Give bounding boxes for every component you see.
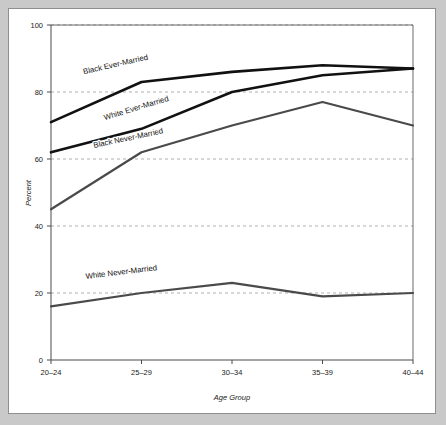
y-tick-label-0: 0 bbox=[39, 356, 43, 365]
y-tick-label-100: 100 bbox=[30, 21, 43, 30]
x-tick-label-1: 25–29 bbox=[131, 368, 152, 377]
y-tick-label-40: 40 bbox=[35, 222, 43, 231]
x-axis-ticks: 20–2425–2930–3435–3940–44 bbox=[41, 360, 424, 377]
y-axis-title: Percent bbox=[24, 179, 33, 206]
figure-frame: 020406080100 20–2425–2930–3435–3940–44 B… bbox=[8, 8, 436, 414]
y-tick-label-60: 60 bbox=[35, 155, 43, 164]
line-chart: 020406080100 20–2425–2930–3435–3940–44 B… bbox=[9, 9, 437, 415]
plot-background bbox=[51, 25, 413, 360]
y-axis-ticks: 020406080100 bbox=[30, 21, 51, 365]
x-tick-label-3: 35–39 bbox=[312, 368, 333, 377]
x-tick-label-0: 20–24 bbox=[41, 368, 62, 377]
y-tick-label-80: 80 bbox=[35, 88, 43, 97]
y-tick-label-20: 20 bbox=[35, 289, 43, 298]
x-axis-title: Age Group bbox=[213, 393, 250, 402]
x-tick-label-4: 40–44 bbox=[403, 368, 424, 377]
x-tick-label-2: 30–34 bbox=[222, 368, 243, 377]
